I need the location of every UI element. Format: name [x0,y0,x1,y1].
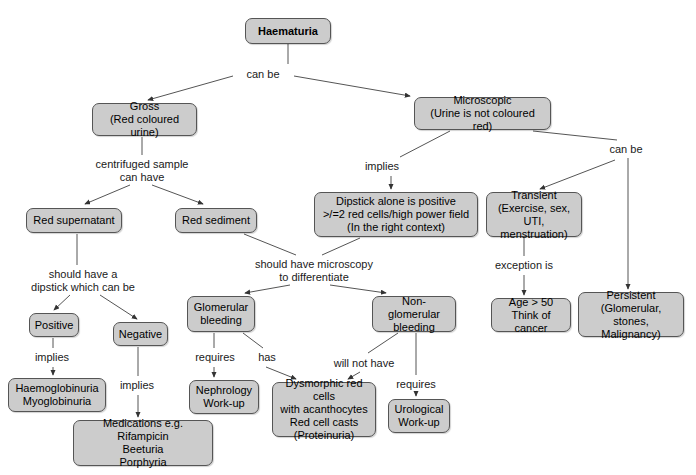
flowchart-canvas: HaematuriaGross (Red coloured urine)Micr… [0,0,696,475]
edge-nonglom-to-willnot [368,333,398,353]
edge-label-can-be-2: can be [601,143,651,156]
edge-label-exception-is: exception is [486,259,562,272]
edge-canbe2-to-transient [540,160,615,189]
edge-shouldmicro-to-glomerular [245,285,290,293]
edge-dipstickq-to-positive [54,295,70,310]
node-medications[interactable]: Medications e.g. Rifampicin Beeturia Por… [73,420,213,466]
edge-hub-to-gross [148,76,233,100]
node-red-sediment[interactable]: Red sediment [175,208,257,233]
edge-dipstick-to-shouldmicro [322,238,360,255]
node-dipstick[interactable]: Dipstick alone is positive >/=2 red cell… [314,192,478,237]
edge-label-implies-3: implies [113,379,161,392]
edge-dipstickq-to-negative [100,295,137,319]
node-glomerular[interactable]: Glomerular bleeding [187,296,255,332]
edge-label-can-be-1: can be [233,68,293,81]
node-age-50[interactable]: Age > 50 Think of cancer [491,298,571,332]
node-negative[interactable]: Negative [113,322,168,346]
edge-label-requires-1: requires [189,351,241,364]
edge-label-has: has [252,351,282,364]
edge-glomerular-to-has [243,333,263,348]
node-dysmorphic[interactable]: Dysmorphic red cells with acanthocytes R… [272,382,376,437]
edge-centrifuged-to-supernatant [85,185,130,204]
node-haemoglobinuria[interactable]: Haemoglobinuria Myoglobinuria [8,378,106,412]
node-positive[interactable]: Positive [29,313,79,337]
node-persistent[interactable]: Persistent (Glomerular, stones, Malignan… [578,292,684,337]
node-microscopic[interactable]: Microscopic (Urine is not coloured red) [414,97,551,130]
edge-label-will-not-have: will not have [328,357,400,370]
node-nephrology[interactable]: Nephrology Work-up [189,380,259,414]
node-urological[interactable]: Urological Work-up [388,399,450,433]
edge-sediment-to-shouldmicro [244,234,296,255]
edge-label-should-dipstick: should have a dipstick which can be [18,268,148,294]
edge-label-implies-1: implies [358,160,406,173]
node-non-glomerular[interactable]: Non-glomerular bleeding [372,296,456,332]
edge-hub-to-microscopic [294,76,410,96]
edge-shouldmicro-to-nonglom [330,285,386,293]
node-gross[interactable]: Gross (Red coloured urine) [92,103,197,136]
edge-microscopic-to-canbe2 [533,131,617,140]
edge-label-requires-2: requires [390,378,442,391]
edge-label-centrifuged: centrifuged sample can have [84,158,200,184]
edge-centrifuged-to-sediment [152,185,203,204]
node-transient[interactable]: Transient (Exercise, sex, UTI, menstruat… [486,192,582,237]
edge-microscopic-to-implies [400,131,450,157]
edge-label-implies-2: implies [28,351,76,364]
edge-label-should-micro: should have microscopy to differentiate [248,258,380,284]
node-haematuria[interactable]: Haematuria [245,18,331,44]
node-red-supernatant[interactable]: Red supernatant [26,208,122,233]
